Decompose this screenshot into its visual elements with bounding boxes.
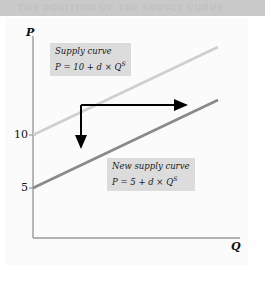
y-tick-label-5: 5 [6,181,28,194]
supply-curve-annotation: Supply curve P = 10 + d × QS [50,43,131,76]
supply-equation-rest: + d × Q [87,62,122,72]
supply-equation-intercept: 10 [73,62,84,72]
new-supply-equation-equals: = [120,177,127,187]
new-supply-equation-p: P [112,177,118,187]
y-tick-label-10: 10 [6,128,28,141]
supply-equation-superscript: S [122,60,126,67]
new-supply-equation-superscript: S [173,175,177,182]
supply-curve-annotation-title: Supply curve [55,46,126,57]
new-supply-curve-equation: P = 5 + d × QS [112,173,190,188]
new-supply-curve-annotation-title: New supply curve [112,161,190,172]
x-axis-label: Q [231,240,241,253]
new-supply-equation-intercept: 5 [130,177,135,187]
supply-equation-p: P [55,62,61,72]
y-axis-label: P [26,26,34,39]
new-supply-curve-annotation: New supply curve P = 5 + d × QS [107,158,195,191]
supply-equation-equals: = [63,62,70,72]
supply-curve-equation: P = 10 + d × QS [55,58,126,73]
figure-container: THE POSITION OF THE SUPPLY CURVE P Q 10 … [0,0,265,282]
supply-curve-chart [0,0,265,282]
new-supply-equation-rest: + d × Q [138,177,173,187]
